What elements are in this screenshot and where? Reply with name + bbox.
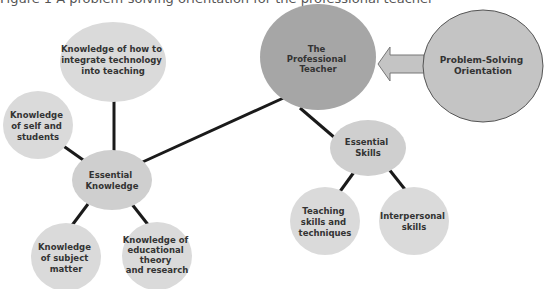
node-problem-solving: Problem-Solving Orientation [423, 10, 543, 122]
node-theory-knowledge: Knowledge of educational theory and rese… [122, 222, 192, 289]
node-essential-knowledge: Essential Knowledge [72, 150, 152, 210]
block-arrow-icon [378, 47, 424, 81]
edge-teacher-essential-skills [300, 108, 335, 138]
svg-text:Teaching skills and: Teaching skills and techniques [299, 206, 352, 238]
node-essential-skills: Essential Skills [330, 120, 406, 176]
concept-diagram: Problem-Solving Orientation The Professi… [0, 0, 546, 289]
node-professional-teacher: The Professional Teacher [260, 4, 376, 110]
node-teaching-skills: Teaching skills and techniques [290, 187, 360, 255]
edge-knowledge-self [62, 145, 86, 162]
node-subject-knowledge: Knowledge of subject matter [31, 223, 101, 289]
node-tech-knowledge: Knowledge of how to integrate technology… [60, 22, 166, 102]
svg-text:Knowledge of self and: Knowledge of self and students [10, 110, 66, 142]
node-self-knowledge: Knowledge of self and students [3, 91, 73, 159]
edge-teacher-essential-knowledge [136, 95, 290, 165]
svg-text:Essential Knowledge: Essential Knowledge [86, 170, 139, 191]
node-interpersonal-skills: Interpersonal skills [379, 187, 449, 255]
